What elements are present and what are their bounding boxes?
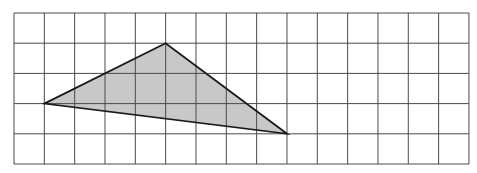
grid-svg [0,0,477,173]
grid-diagram [0,0,477,173]
